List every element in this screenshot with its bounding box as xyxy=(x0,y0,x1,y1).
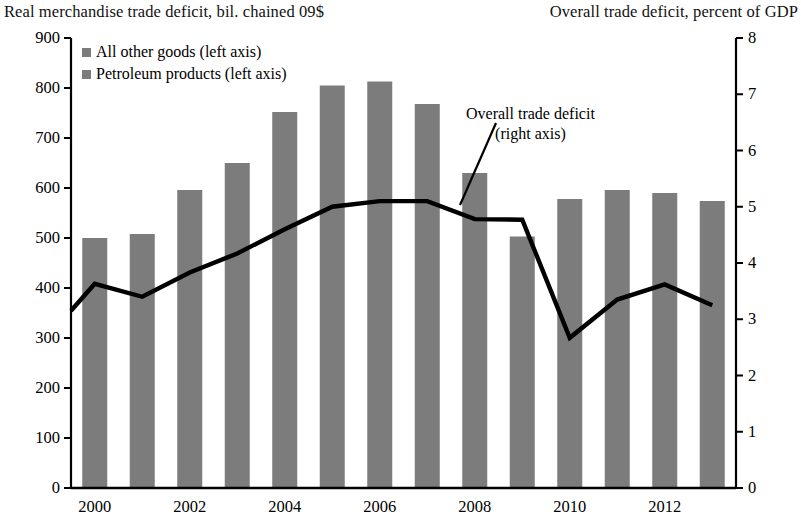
x-tick-label: 2010 xyxy=(540,499,600,516)
y-tick-label-left: 700 xyxy=(35,130,60,147)
y-tick-label-right: 3 xyxy=(748,311,756,328)
bar-segment xyxy=(225,163,250,488)
y-tick-label-right: 8 xyxy=(748,30,756,47)
y-tick-label-left: 900 xyxy=(35,30,60,47)
y-tick-label-right: 2 xyxy=(748,368,756,385)
y-tick-label-right: 6 xyxy=(748,143,756,160)
x-tick-label: 2012 xyxy=(635,499,695,516)
bar-segment xyxy=(320,86,345,489)
chart-plot-area xyxy=(0,0,801,523)
chart-figure: Real merchandise trade deficit, bil. cha… xyxy=(0,0,801,523)
y-tick-label-right: 0 xyxy=(748,480,756,497)
y-tick-label-left: 800 xyxy=(35,80,60,97)
x-tick-label: 2004 xyxy=(255,499,315,516)
y-tick-label-left: 400 xyxy=(35,280,60,297)
y-tick-label-left: 100 xyxy=(35,430,60,447)
y-tick-label-left: 600 xyxy=(35,180,60,197)
x-tick-label: 2008 xyxy=(445,499,505,516)
y-tick-label-left: 0 xyxy=(52,480,60,497)
y-tick-label-left: 200 xyxy=(35,380,60,397)
x-tick-label: 2006 xyxy=(350,499,410,516)
bar-segment xyxy=(415,104,440,488)
y-tick-label-right: 4 xyxy=(748,255,756,272)
x-tick-label: 2002 xyxy=(160,499,220,516)
bar-segment xyxy=(510,237,535,489)
bar-segment xyxy=(652,193,677,488)
bar-segment xyxy=(130,234,155,488)
bar-segment xyxy=(177,190,202,488)
bar-segment xyxy=(700,201,725,488)
y-tick-label-left: 300 xyxy=(35,330,60,347)
bar-segment xyxy=(557,199,582,488)
y-tick-label-right: 5 xyxy=(748,199,756,216)
y-tick-label-right: 7 xyxy=(748,86,756,103)
y-tick-label-left: 500 xyxy=(35,230,60,247)
x-tick-label: 2000 xyxy=(65,499,125,516)
bar-segment xyxy=(367,82,392,489)
y-tick-label-right: 1 xyxy=(748,424,756,441)
bar-segment xyxy=(605,190,630,488)
bar-segment xyxy=(82,238,107,488)
bar-segment xyxy=(272,112,297,488)
